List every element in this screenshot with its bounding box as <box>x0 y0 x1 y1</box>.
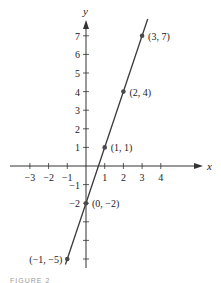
y-tick-label: 5 <box>75 68 80 79</box>
data-point <box>140 34 145 39</box>
y-tick-label: 6 <box>75 49 80 60</box>
x-tick-label: 2 <box>121 172 126 183</box>
y-tick-label: 7 <box>75 31 80 42</box>
y-tick-label: 4 <box>75 87 80 98</box>
y-tick-label: −2 <box>69 198 80 209</box>
data-point-label: (−1, −5) <box>29 254 62 266</box>
y-axis-arrow-icon <box>83 20 89 29</box>
x-tick-label: −2 <box>43 172 54 183</box>
y-tick-label: 3 <box>75 105 80 116</box>
data-point-label: (0, −2) <box>92 198 119 210</box>
x-tick-label: 1 <box>102 172 107 183</box>
coordinate-plot: xy −3−2−11234−2−11234567 (−1, −5)(0, −2)… <box>0 0 221 283</box>
y-axis-label: y <box>82 5 88 17</box>
data-point <box>65 257 70 262</box>
data-point-label: (3, 7) <box>148 31 170 43</box>
data-point <box>102 145 107 150</box>
data-point-label: (1, 1) <box>111 142 133 154</box>
y-tick-label: 1 <box>75 142 80 153</box>
y-tick-label: −1 <box>69 180 80 191</box>
tick-marks: −3−2−11234−2−11234567 <box>25 31 164 259</box>
x-tick-label: 4 <box>158 172 163 183</box>
x-tick-label: 3 <box>140 172 145 183</box>
x-axis-label: x <box>206 160 212 172</box>
data-point-label: (2, 4) <box>129 87 151 99</box>
axes: xy <box>10 5 212 268</box>
data-point <box>84 201 89 206</box>
x-axis-arrow-icon <box>194 163 203 169</box>
data-points: (−1, −5)(0, −2)(1, 1)(2, 4)(3, 7) <box>29 31 169 266</box>
figure-caption: FIGURE 2 <box>10 277 50 283</box>
x-tick-label: −3 <box>25 172 36 183</box>
y-tick-label: 2 <box>75 124 80 135</box>
data-point <box>121 89 126 94</box>
